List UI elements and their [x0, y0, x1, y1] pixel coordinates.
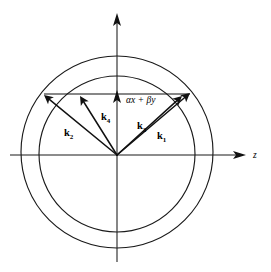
- transverse-axis-label: αx+βy: [126, 95, 156, 105]
- vector-k2-arrowhead: [44, 95, 54, 104]
- vector-k4-label-subscript: 4: [107, 117, 111, 125]
- vector-k3-shaft: [117, 100, 177, 155]
- transverse-axis-label-text: αx+βy: [126, 95, 156, 105]
- figure-root: z αx+βy k1 k2 k3 k4: [0, 0, 271, 272]
- horizontal-axis-label: z: [252, 150, 257, 160]
- x-symbol: x: [130, 95, 136, 105]
- plus-symbol: +: [138, 95, 143, 105]
- vector-k2-label: k2: [64, 127, 74, 141]
- vector-k2-shaft: [49, 99, 117, 155]
- vector-k3-label-subscript: 3: [143, 126, 147, 134]
- vector-k4-shaft: [83, 102, 117, 155]
- vector-k1-label-subscript: 1: [163, 136, 167, 144]
- vector-k3-label: k3: [137, 120, 147, 134]
- vector-k4-arrowhead: [80, 96, 89, 106]
- vector-k4: [80, 96, 117, 155]
- axes-group: [10, 13, 246, 262]
- vector-k2: [44, 95, 117, 155]
- vector-k4-label: k4: [101, 111, 111, 125]
- vector-k1-label: k1: [157, 130, 167, 144]
- vector-k2-label-subscript: 2: [70, 133, 74, 141]
- y-symbol: y: [150, 95, 156, 105]
- wave-vector-diagram: z αx+βy k1 k2 k3 k4: [0, 0, 271, 272]
- label-group: z αx+βy k1 k2 k3 k4: [64, 95, 257, 160]
